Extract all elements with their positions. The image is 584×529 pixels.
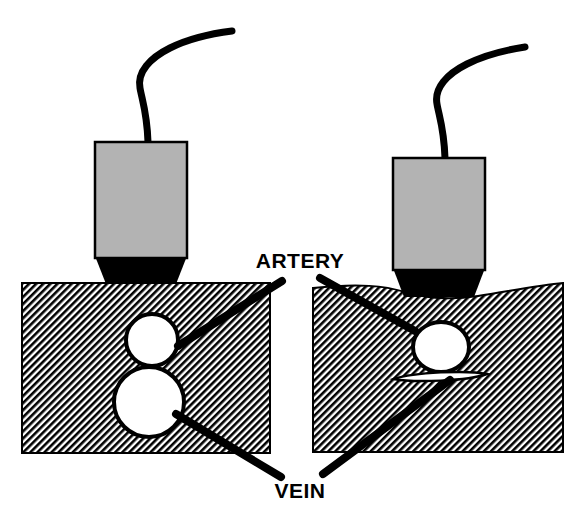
ultrasound-compression-diagram: ARTERY VEIN <box>0 0 584 529</box>
vein-lumen-left <box>114 367 184 437</box>
diagram-root: ARTERY VEIN <box>0 0 584 529</box>
probe-body-left <box>95 142 187 258</box>
vein-label: VEIN <box>274 479 325 502</box>
probe-body-right <box>393 158 485 270</box>
probe-foot-left <box>95 256 187 284</box>
probe-foot-right <box>393 268 485 297</box>
artery-label: ARTERY <box>256 249 345 272</box>
artery-lumen-left <box>126 314 178 366</box>
artery-lumen-right <box>413 322 469 372</box>
